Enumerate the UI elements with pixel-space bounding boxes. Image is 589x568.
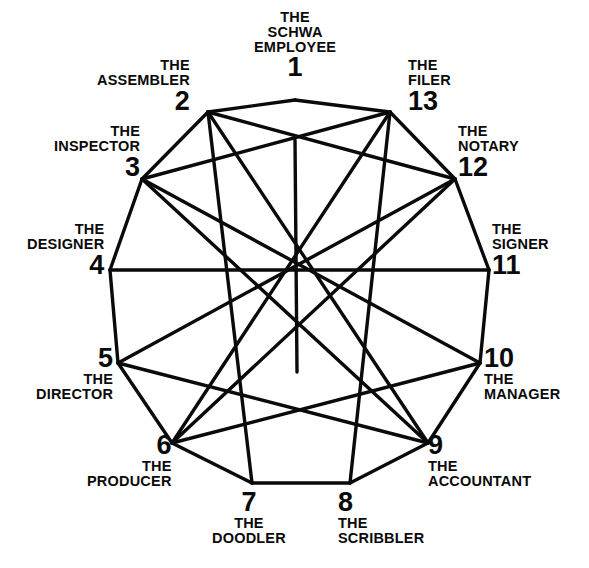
node-number-6: 6 [87,432,172,459]
center-spoke [295,140,297,372]
node-label-6[interactable]: 6THEPRODUCER [87,432,172,489]
node-label-4[interactable]: THEDESIGNER4 [27,222,104,279]
perimeter-edges [110,100,489,483]
edge-11-12 [455,179,489,270]
node-name-1: THESCHWAEMPLOYEE [254,10,336,54]
node-number-3: 3 [54,154,140,181]
node-name-11: THESIGNER [492,222,549,252]
node-name-3: THEINSPECTOR [54,124,140,154]
node-number-1: 1 [254,54,336,81]
node-label-12[interactable]: THENOTARY12 [458,124,519,181]
node-name-6: THEPRODUCER [87,459,172,489]
node-label-10[interactable]: 10THEMANAGER [484,345,560,402]
edge-3-4 [110,179,142,270]
node-number-12: 12 [458,154,519,181]
node-label-7[interactable]: 7THEDOODLER [212,489,286,546]
node-label-13[interactable]: THEFILER13 [408,58,451,115]
node-label-9[interactable]: 9THEACCOUNTANT [428,432,531,489]
edge-1-2 [208,100,295,112]
node-label-8[interactable]: 8THESCRIBBLER [338,489,424,546]
node-number-4: 4 [27,252,104,279]
node-name-9: THEACCOUNTANT [428,459,531,489]
node-name-2: THEASSEMBLER [97,58,190,88]
center-spoke-line [295,140,297,372]
node-name-12: THENOTARY [458,124,519,154]
node-number-8: 8 [338,489,424,516]
node-name-7: THEDOODLER [212,516,286,546]
edge-6-7 [172,443,252,483]
node-name-13: THEFILER [408,58,451,88]
node-label-5[interactable]: 5THEDIRECTOR [36,345,113,402]
diagram-canvas: THESCHWAEMPLOYEE1THEASSEMBLER2THEINSPECT… [0,0,589,568]
node-label-11[interactable]: THESIGNER11 [492,222,549,279]
edge-8-9 [350,443,428,483]
node-number-9: 9 [428,432,531,459]
node-number-7: 7 [212,489,286,516]
node-label-1[interactable]: THESCHWAEMPLOYEE1 [254,10,336,81]
node-label-3[interactable]: THEINSPECTOR3 [54,124,140,181]
edge-13-1 [295,100,390,112]
node-name-4: THEDESIGNER [27,222,104,252]
node-number-11: 11 [492,252,549,279]
node-name-8: THESCRIBBLER [338,516,424,546]
node-number-5: 5 [36,345,113,372]
node-number-10: 10 [484,345,560,372]
chord-lines [110,112,489,483]
node-name-10: THEMANAGER [484,372,560,402]
node-number-13: 13 [408,88,451,115]
node-label-2[interactable]: THEASSEMBLER2 [97,58,190,115]
node-number-2: 2 [97,88,190,115]
node-name-5: THEDIRECTOR [36,372,113,402]
